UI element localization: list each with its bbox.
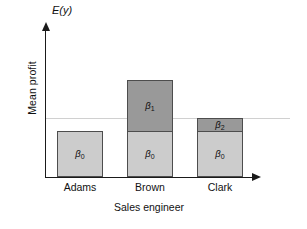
- bar-brown-segment-beta0: β0: [127, 131, 173, 177]
- bar-clark-segment-beta2: β2: [197, 118, 243, 132]
- bar-adams-segment-beta0: β0: [57, 131, 103, 177]
- bar-clark[interactable]: β0 β2: [197, 118, 243, 177]
- bar-brown-segment-beta0-label: β0: [128, 147, 172, 160]
- bar-brown[interactable]: β0 β1: [127, 80, 173, 177]
- y-axis-title: Mean profit: [26, 38, 38, 138]
- x-axis: [45, 177, 253, 178]
- bar-clark-segment-beta2-label: β2: [198, 118, 242, 131]
- bar-clark-segment-beta0: β0: [197, 131, 243, 177]
- category-label-clark: Clark: [175, 181, 265, 193]
- bar-adams[interactable]: β0: [57, 131, 103, 177]
- x-axis-arrow-icon: [252, 173, 261, 181]
- y-axis-arrow-icon: [42, 22, 50, 31]
- bar-brown-segment-beta1: β1: [127, 80, 173, 132]
- bar-adams-segment-beta0-label: β0: [58, 147, 102, 160]
- x-axis-title: Sales engineer: [45, 201, 253, 213]
- y-axis: [45, 30, 46, 177]
- bar-brown-segment-beta1-label: β1: [128, 99, 172, 112]
- y-axis-symbol-label: E(y): [52, 4, 72, 16]
- bar-clark-segment-beta0-label: β0: [198, 147, 242, 160]
- chart-figure: E(y) Mean profit Sales engineer β0 Adams…: [0, 0, 307, 229]
